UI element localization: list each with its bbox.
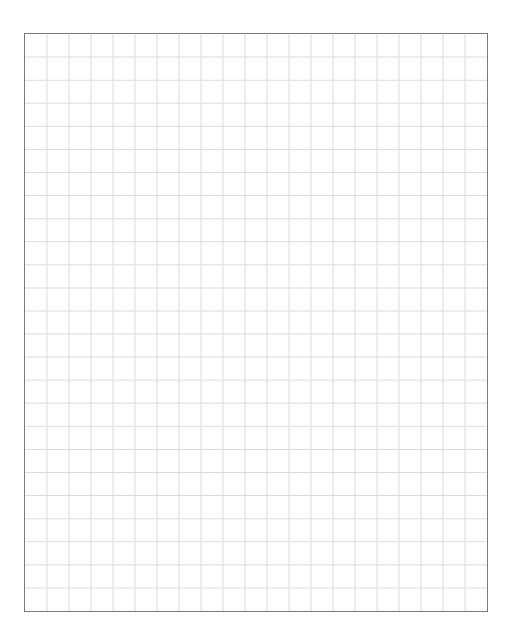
graph-paper-grid — [24, 33, 488, 612]
grid-lines — [25, 34, 487, 611]
grid-svg — [25, 34, 487, 611]
